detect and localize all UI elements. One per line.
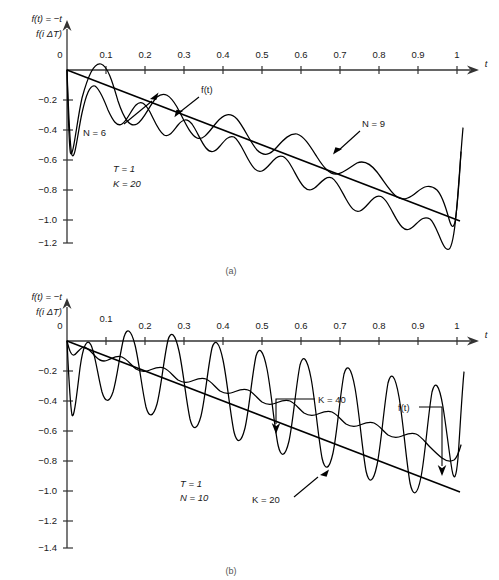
panel-b-annotation-ft-arrowhead — [438, 465, 447, 476]
panel-b-ytick-6: −1.4 — [38, 542, 57, 553]
panel-b-xtick-7: 0.7 — [333, 320, 346, 331]
panel-b-xtick-6: 0.6 — [294, 320, 307, 331]
panel-a-caption: (a) — [226, 266, 237, 276]
panel-b-xtick-5: 0.5 — [255, 320, 268, 331]
panel-a-param-K: K = 20 — [113, 178, 141, 189]
panel-a-ytick-2: −0.6 — [38, 154, 57, 165]
figure-container: f(t) = −t f(i ΔT) t 0 0.1 0.2 0.3 0.4 0.… — [0, 0, 499, 580]
panel-a-yaxis-label-line1: f(t) = −t — [31, 13, 62, 24]
panel-b-ytick-3: −0.8 — [38, 455, 57, 466]
panel-b-y-ticks — [63, 371, 73, 548]
panel-b-annotation-k20-arrowhead — [320, 469, 329, 476]
panel-b-ytick-4: −1.0 — [38, 485, 57, 496]
panel-b-annotation-k20-leader — [294, 477, 318, 497]
panel-b-param-T: T = 1 — [180, 478, 202, 489]
panel-b: f(t) = −t f(i ΔT) t 0 0.1 0.2 0.3 0.4 0.… — [31, 291, 487, 576]
panel-a-xtick-9: 0.9 — [411, 49, 424, 60]
panel-b-ytick-2: −0.6 — [38, 425, 57, 436]
panel-a-xtick-8: 0.8 — [372, 49, 385, 60]
panel-b-xtick-8: 0.8 — [372, 320, 385, 331]
panel-a-xtick-0: 0 — [57, 49, 62, 60]
panel-a-curve-n9 — [67, 70, 463, 249]
panel-b-annotation-ft-label: f(t) — [398, 402, 410, 413]
figure-svg: f(t) = −t f(i ΔT) t 0 0.1 0.2 0.3 0.4 0.… — [0, 0, 499, 580]
panel-b-yaxis-label-line2: f(i ΔT) — [36, 306, 62, 317]
panel-b-xtick-3: 0.3 — [177, 320, 190, 331]
panel-b-ytick-5: −1.2 — [38, 515, 57, 526]
panel-a-annotation-ft-leader — [180, 97, 199, 112]
panel-b-x-tick-labels: 0 0.1 0.2 0.3 0.4 0.5 0.6 0.7 0.8 0.9 1 — [57, 313, 459, 331]
panel-a-annotation-n6-arrowhead — [150, 93, 159, 101]
panel-a-xtick-10: 1 — [454, 49, 459, 60]
panel-b-xtick-0: 0 — [57, 320, 62, 331]
panel-b-y-tick-labels: −0.2 −0.4 −0.6 −0.8 −1.0 −1.2 −1.4 — [38, 365, 57, 553]
panel-a-xtick-2: 0.2 — [138, 49, 151, 60]
panel-a-xtick-5: 0.5 — [255, 49, 268, 60]
panel-a-annotation-n9-leader — [339, 131, 360, 150]
panel-a-ytick-3: −0.8 — [38, 184, 57, 195]
panel-a-xtick-1: 0.1 — [99, 49, 112, 60]
panel-a-annotation-ft-label: f(t) — [201, 84, 213, 95]
panel-b-xtick-4: 0.4 — [216, 320, 229, 331]
panel-b-ytick-1: −0.4 — [38, 395, 57, 406]
panel-a-annotation-n6-leader — [124, 101, 152, 124]
panel-b-xtick-2: 0.2 — [138, 320, 151, 331]
panel-a-annotation-n6-label: N = 6 — [83, 127, 106, 138]
panel-a-x-axis-title: t — [485, 58, 488, 69]
panel-b-caption: (b) — [226, 566, 237, 576]
panel-a: f(t) = −t f(i ΔT) t 0 0.1 0.2 0.3 0.4 0.… — [31, 13, 487, 276]
panel-a-y-tick-labels: −0.2 −0.4 −0.6 −0.8 −1.0 −1.2 — [38, 94, 57, 248]
panel-a-xtick-7: 0.7 — [333, 49, 346, 60]
panel-b-annotation-k40-leader — [276, 399, 315, 424]
panel-a-xtick-6: 0.6 — [294, 49, 307, 60]
panel-b-curve-ft — [67, 341, 460, 492]
panel-b-x-axis-title: t — [485, 329, 488, 340]
panel-a-yaxis-label-line2: f(i ΔT) — [36, 28, 62, 39]
panel-b-yaxis-label-line1: f(t) = −t — [31, 291, 62, 302]
panel-b-annotation-k40-arrowhead — [272, 423, 281, 434]
panel-b-xtick-1: 0.1 — [99, 313, 112, 324]
panel-b-annotation-k40-label: K = 40 — [318, 394, 346, 405]
panel-b-param-N: N = 10 — [180, 492, 209, 503]
panel-b-xtick-9: 0.9 — [411, 320, 424, 331]
panel-a-xtick-3: 0.3 — [177, 49, 190, 60]
panel-a-ytick-0: −0.2 — [38, 94, 57, 105]
panel-a-x-tick-labels: 0 0.1 0.2 0.3 0.4 0.5 0.6 0.7 0.8 0.9 1 — [57, 49, 459, 60]
panel-a-xtick-4: 0.4 — [216, 49, 229, 60]
panel-a-param-T: T = 1 — [113, 163, 135, 174]
panel-a-annotation-n9-label: N = 9 — [362, 118, 385, 129]
panel-b-annotation-k20-label: K = 20 — [252, 494, 280, 505]
panel-b-annotation-ft-leader — [419, 407, 442, 466]
panel-b-xtick-10: 1 — [454, 320, 459, 331]
panel-b-ytick-0: −0.2 — [38, 365, 57, 376]
panel-a-ytick-1: −0.4 — [38, 124, 57, 135]
panel-a-ytick-4: −1.0 — [38, 214, 57, 225]
panel-a-ytick-5: −1.2 — [38, 237, 57, 248]
